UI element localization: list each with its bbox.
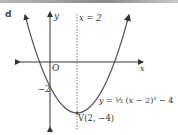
vertex-label: V(2, −4) (78, 114, 114, 123)
equation-label: y = ½ (x − 2)² − 4 (99, 97, 173, 105)
y-intercept-label: −2 (38, 85, 51, 94)
axis-of-symmetry-label: x = 2 (79, 14, 102, 23)
origin-label: O (52, 64, 59, 73)
y-axis-label: y (54, 12, 59, 21)
x-axis-label: x (140, 65, 145, 73)
part-label: d (5, 10, 11, 19)
